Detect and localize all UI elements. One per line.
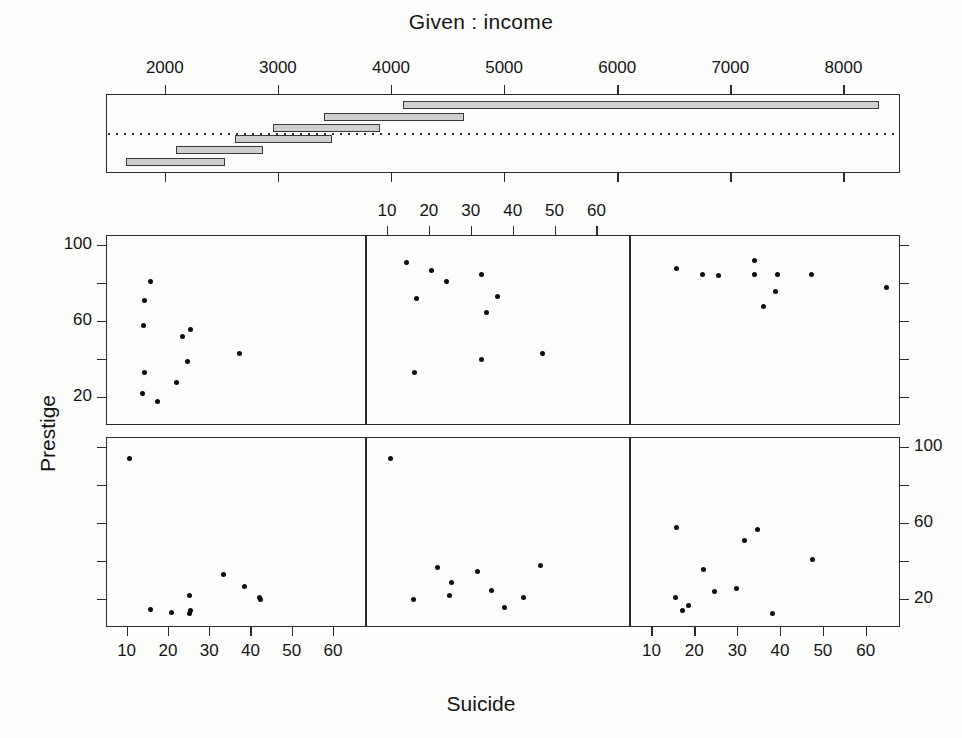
x-tick-mark bbox=[471, 226, 472, 235]
y-tick-mark bbox=[900, 321, 909, 322]
y-tick-mark bbox=[900, 283, 909, 284]
y-tick-label: 20 bbox=[914, 588, 962, 608]
x-tick-mark bbox=[780, 627, 781, 636]
y-tick-mark bbox=[900, 523, 909, 524]
y-tick-mark bbox=[97, 397, 106, 398]
y-tick-label: 100 bbox=[914, 436, 962, 456]
x-tick-mark bbox=[823, 627, 824, 636]
y-tick-mark bbox=[900, 447, 909, 448]
x-axis-title: Suicide bbox=[0, 692, 962, 716]
axes-layer: 1020304050601020304050601020304050602060… bbox=[0, 0, 962, 738]
y-tick-mark bbox=[900, 485, 909, 486]
x-tick-mark bbox=[596, 226, 597, 235]
x-tick-mark bbox=[168, 627, 169, 636]
coplot-figure: Given : income 2000300040005000600070008… bbox=[0, 0, 962, 738]
x-tick-mark bbox=[292, 627, 293, 636]
x-tick-label: 60 bbox=[303, 641, 363, 661]
y-tick-label: 100 bbox=[40, 234, 92, 254]
y-tick-mark bbox=[97, 283, 106, 284]
x-tick-mark bbox=[209, 627, 210, 636]
y-tick-mark bbox=[900, 397, 909, 398]
y-tick-mark bbox=[97, 245, 106, 246]
x-tick-mark bbox=[513, 226, 514, 235]
y-tick-mark bbox=[900, 561, 909, 562]
y-tick-mark bbox=[900, 245, 909, 246]
y-tick-mark bbox=[97, 359, 106, 360]
x-tick-label: 60 bbox=[566, 201, 626, 221]
x-tick-mark bbox=[333, 627, 334, 636]
y-tick-mark bbox=[97, 599, 106, 600]
x-tick-mark bbox=[737, 627, 738, 636]
x-tick-mark bbox=[429, 226, 430, 235]
y-tick-mark bbox=[97, 485, 106, 486]
x-tick-mark bbox=[127, 627, 128, 636]
y-tick-label: 60 bbox=[40, 310, 92, 330]
x-tick-mark bbox=[555, 226, 556, 235]
x-tick-mark bbox=[651, 627, 652, 636]
x-tick-mark bbox=[866, 627, 867, 636]
y-tick-mark bbox=[900, 359, 909, 360]
y-tick-label: 60 bbox=[914, 512, 962, 532]
y-tick-mark bbox=[900, 599, 909, 600]
y-tick-mark bbox=[97, 561, 106, 562]
x-tick-label: 60 bbox=[836, 641, 896, 661]
x-tick-mark bbox=[694, 627, 695, 636]
y-tick-mark bbox=[97, 523, 106, 524]
x-tick-mark bbox=[250, 627, 251, 636]
y-tick-mark bbox=[97, 321, 106, 322]
y-axis-title: Prestige bbox=[36, 395, 60, 472]
y-tick-mark bbox=[97, 447, 106, 448]
x-tick-mark bbox=[387, 226, 388, 235]
